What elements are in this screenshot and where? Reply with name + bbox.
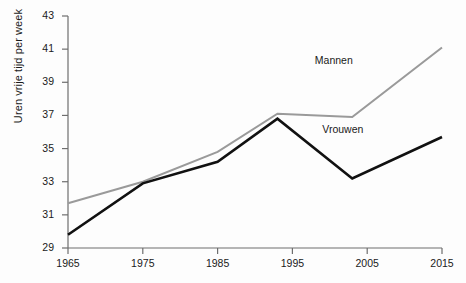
series-lines — [68, 47, 442, 234]
y-axis-tick-label: 43 — [28, 9, 54, 21]
series-line-mannen — [68, 47, 442, 203]
x-axis-tick-label: 2005 — [345, 257, 389, 269]
x-axis-ticks — [68, 248, 442, 254]
x-axis-tick-label: 1995 — [270, 257, 314, 269]
y-axis-tick-label: 35 — [28, 142, 54, 154]
y-axis-tick-label: 33 — [28, 175, 54, 187]
y-axis-tick-label: 37 — [28, 108, 54, 120]
y-axis-tick-label: 41 — [28, 42, 54, 54]
x-axis-tick-label: 1965 — [46, 257, 90, 269]
plot-area — [0, 0, 466, 283]
line-chart: Uren vrije tijd per week 293133353739414… — [0, 0, 466, 283]
y-axis-tick-label: 31 — [28, 208, 54, 220]
x-axis-tick-label: 2015 — [420, 257, 464, 269]
y-axis-ticks — [62, 16, 68, 248]
x-axis-tick-label: 1985 — [196, 257, 240, 269]
series-label-vrouwen: Vrouwen — [322, 123, 363, 135]
y-axis-tick-label: 39 — [28, 75, 54, 87]
series-label-mannen: Mannen — [315, 54, 353, 66]
y-axis-tick-label: 29 — [28, 241, 54, 253]
series-line-vrouwen — [68, 119, 442, 235]
axis-lines — [68, 16, 442, 248]
x-axis-tick-label: 1975 — [121, 257, 165, 269]
